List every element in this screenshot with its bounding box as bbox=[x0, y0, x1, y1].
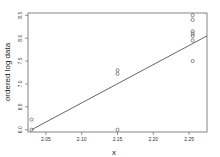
y-tick-label: 6.5 bbox=[17, 103, 23, 110]
regression-line bbox=[32, 36, 207, 130]
data-point bbox=[191, 39, 194, 42]
x-tick-label: 2.20 bbox=[148, 136, 158, 142]
fit-line bbox=[32, 36, 207, 130]
data-point bbox=[191, 30, 194, 33]
x-axis-ticks: 2.052.102.152.202.25 bbox=[41, 132, 194, 142]
data-point bbox=[191, 14, 194, 17]
x-tick-label: 2.15 bbox=[113, 136, 123, 142]
y-tick-label: 6.0 bbox=[17, 126, 23, 133]
y-tick-label: 7.0 bbox=[17, 80, 23, 87]
data-point bbox=[116, 72, 119, 75]
data-points bbox=[30, 14, 194, 132]
x-axis-label: x bbox=[112, 148, 116, 157]
y-tick-label: 7.5 bbox=[17, 57, 23, 64]
x-tick-label: 2.05 bbox=[41, 136, 51, 142]
scatter-chart: 2.052.102.152.202.25 6.06.57.07.58.08.5 … bbox=[0, 0, 220, 157]
data-point bbox=[191, 59, 194, 62]
data-point bbox=[116, 128, 119, 131]
data-point bbox=[191, 18, 194, 21]
y-tick-label: 8.0 bbox=[17, 34, 23, 41]
data-point bbox=[116, 69, 119, 72]
data-point bbox=[30, 118, 33, 121]
y-axis-ticks: 6.06.57.07.58.08.5 bbox=[17, 12, 28, 134]
y-tick-label: 8.5 bbox=[17, 12, 23, 19]
y-axis-label: ordered log data bbox=[3, 42, 12, 101]
x-tick-label: 2.10 bbox=[77, 136, 87, 142]
x-tick-label: 2.25 bbox=[184, 136, 194, 142]
